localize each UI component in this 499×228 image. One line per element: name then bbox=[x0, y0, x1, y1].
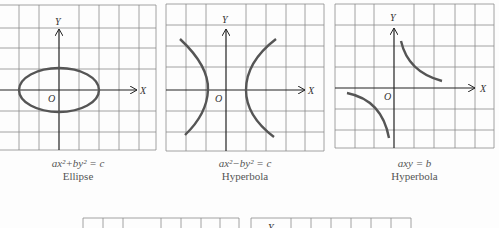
hyperbola-panel-2 bbox=[335, 4, 494, 148]
curve-name: Hyperbola bbox=[166, 170, 324, 183]
origin-label: O bbox=[215, 93, 222, 104]
y-axis-label: Y bbox=[222, 14, 229, 25]
grid bbox=[335, 4, 494, 148]
hyperbola-right-branch bbox=[246, 39, 276, 137]
hyperbola-panel-1 bbox=[166, 4, 324, 151]
y-axis-label: Y bbox=[268, 222, 275, 228]
equation: axy = b bbox=[335, 157, 494, 170]
y-axis-label: Y bbox=[55, 16, 62, 27]
conic-sections-figure: Y X O Y X O Y X O Y bbox=[0, 0, 499, 228]
hyperbola-upper-right-branch bbox=[401, 41, 442, 81]
curve-name: Ellipse bbox=[0, 170, 156, 183]
curve-name: Hyperbola bbox=[335, 170, 494, 183]
ellipse-caption: ax²+by² = c Ellipse bbox=[0, 157, 156, 183]
hyperbola-2-caption: axy = b Hyperbola bbox=[335, 157, 494, 183]
grid bbox=[0, 5, 156, 150]
x-axis-label: X bbox=[139, 85, 147, 96]
origin-label: O bbox=[384, 91, 391, 102]
origin-label: O bbox=[48, 93, 55, 104]
hyperbola-left-branch bbox=[180, 39, 208, 135]
x-axis-label: X bbox=[307, 85, 315, 96]
y-axis-label: Y bbox=[390, 12, 397, 23]
ellipse-panel bbox=[0, 5, 156, 150]
hyperbola-lower-left-branch bbox=[347, 93, 389, 138]
equation: ax²−by² = c bbox=[166, 157, 324, 170]
hyperbola-1-caption: ax²−by² = c Hyperbola bbox=[166, 157, 324, 183]
partial-panel-bottom-left bbox=[83, 218, 239, 228]
x-axis-label: X bbox=[479, 83, 487, 94]
equation: ax²+by² = c bbox=[0, 157, 156, 170]
partial-panel-bottom-right bbox=[251, 218, 411, 228]
